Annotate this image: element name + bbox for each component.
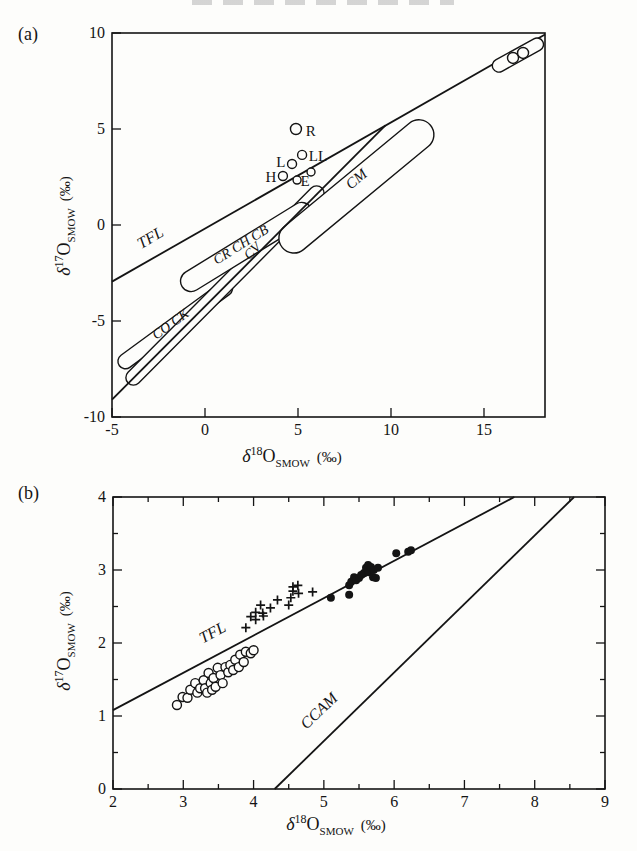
- x-tick-label: 4: [250, 793, 258, 810]
- x-tick-label: 3: [179, 793, 187, 810]
- x-tick-label: 10: [383, 421, 399, 438]
- point-label-e: E: [300, 173, 309, 189]
- open-circle-point: [172, 701, 181, 710]
- line-tfl: [113, 497, 514, 710]
- line-ccam: [112, 125, 385, 399]
- y-axis-title-b: δ17OSMOW(‰): [52, 591, 77, 691]
- x-tick-label: 7: [460, 793, 468, 810]
- open-circle-point: [249, 646, 258, 655]
- y-tick-label: 2: [98, 634, 106, 651]
- y-tick-label: -5: [92, 312, 105, 329]
- plus-point: [266, 603, 275, 612]
- point-label-l: L: [276, 154, 285, 170]
- line-label-ccam: CCAM: [297, 688, 342, 732]
- isotope-figure-svg: -5051015-10-50510CO CKCVCR CH CBCMTFLRLL…: [0, 0, 637, 851]
- field-circle-ll: [298, 150, 307, 159]
- x-tick-label: 0: [201, 421, 209, 438]
- y-tick-label: 5: [97, 120, 105, 137]
- filled-circle-point: [327, 594, 335, 602]
- plus-point: [241, 623, 250, 632]
- x-tick-label: 6: [390, 793, 398, 810]
- point-label-h: H: [265, 169, 276, 185]
- x-tick-label: -5: [105, 421, 118, 438]
- line-ccam: [275, 497, 574, 789]
- y-tick-label: 3: [98, 561, 106, 578]
- x-tick-label: 5: [294, 421, 302, 438]
- panel-b: 2345678901234TFLCCAMδ18OSMOW(‰)δ17OSMOW(…: [52, 488, 609, 837]
- y-tick-label: -10: [84, 408, 105, 425]
- filled-circle-point: [345, 591, 353, 599]
- filled-circle-point: [407, 546, 415, 554]
- y-tick-label: 1: [98, 707, 106, 724]
- plus-point: [293, 581, 302, 590]
- open-circle-point: [239, 657, 248, 666]
- open-circle-point: [218, 679, 227, 688]
- series-plus-marks: [241, 581, 317, 632]
- panel-a: -5051015-10-50510CO CKCVCR CH CBCMTFLRLL…: [52, 24, 546, 469]
- y-tick-label: 4: [98, 488, 106, 505]
- x-tick-label: 5: [320, 793, 328, 810]
- field-circle-h: [278, 172, 287, 181]
- y-tick-label: 10: [89, 24, 105, 41]
- point-label-r: R: [306, 123, 316, 139]
- point-label-ll: LL: [309, 148, 327, 164]
- field-circle: [508, 52, 519, 63]
- x-axis-title-b: δ18OSMOW(‰): [286, 812, 386, 837]
- field-circle-r: [290, 124, 301, 135]
- plus-point: [256, 601, 265, 610]
- plus-point: [308, 587, 317, 596]
- plus-point: [286, 593, 295, 602]
- x-tick-label: 2: [109, 793, 117, 810]
- plus-point: [288, 587, 297, 596]
- x-tick-label: 8: [531, 793, 539, 810]
- series-filled-circles: [327, 546, 415, 601]
- x-tick-label: 9: [601, 793, 609, 810]
- plus-point: [294, 589, 303, 598]
- line-label-tfl: TFL: [134, 223, 166, 252]
- filled-circle-point: [372, 574, 380, 582]
- y-tick-label: 0: [97, 216, 105, 233]
- field-circle-l: [288, 159, 297, 168]
- filled-circle-point: [392, 549, 400, 557]
- line-tfl: [112, 35, 545, 282]
- x-axis-title-a: δ18OSMOW(‰): [242, 444, 342, 469]
- plus-point: [284, 601, 293, 610]
- line-label-tfl: TFL: [196, 618, 228, 646]
- y-axis-title-a: δ17OSMOW(‰): [52, 176, 77, 276]
- figure-oxygen-isotope-plots: (a) (b) -5051015-10-50510CO CKCVCR CH CB…: [0, 0, 637, 851]
- x-tick-label: 15: [476, 421, 492, 438]
- plus-point: [273, 595, 282, 604]
- y-tick-label: 0: [98, 780, 106, 797]
- plot-frame-b: [113, 497, 605, 789]
- filled-circle-point: [374, 564, 382, 572]
- field-circle: [518, 47, 529, 58]
